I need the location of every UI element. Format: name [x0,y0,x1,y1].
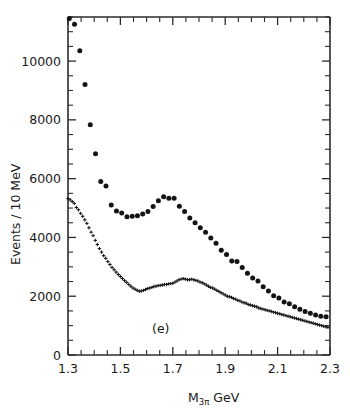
data-point [251,304,254,307]
data-point [156,198,161,203]
data-point [261,307,264,310]
data-point [177,204,182,209]
data-point [305,320,308,323]
data-point [282,313,285,316]
data-point [89,230,92,233]
data-point [203,230,208,235]
data-point [194,279,197,282]
data-point [93,151,98,156]
data-point [261,284,266,289]
data-point [67,16,72,21]
y-tick-label: 8000 [29,112,61,127]
data-point [272,310,275,313]
data-point [293,316,296,319]
x-tick-label: 2.1 [268,361,288,376]
data-point [182,277,185,280]
data-point [284,314,287,317]
data-point [274,311,277,314]
data-point [129,285,132,288]
data-point [187,216,192,221]
data-point [270,310,273,313]
data-point [73,202,76,205]
data-point [192,278,195,281]
y-tick-label: 0 [53,348,61,363]
data-point [151,204,156,209]
data-point [124,214,129,219]
x-axis-label: M3π GeV [188,390,240,407]
data-point [79,212,82,215]
data-point [98,247,101,250]
data-point [288,315,291,318]
data-point [75,206,78,209]
data-point [297,317,300,320]
data-point [299,318,302,321]
data-point [165,283,168,286]
data-point [119,211,124,216]
data-point [117,273,120,276]
data-point [130,214,135,219]
y-tick-label: 10000 [21,54,61,69]
x-axis-label-text: M3π GeV [188,390,240,407]
data-point [112,268,115,271]
data-point [309,321,312,324]
data-point [110,266,113,269]
data-point [94,239,97,242]
data-point [104,257,107,260]
data-point [154,285,157,288]
x-axis-tick-labels: 1.31.51.71.92.12.3 [58,361,340,376]
data-point [292,304,297,309]
data-point [265,309,268,312]
data-point [263,308,266,311]
data-point [316,323,319,326]
data-point [109,203,114,208]
data-point [88,122,93,127]
x-tick-label: 1.9 [215,361,235,376]
data-point [182,209,187,214]
data-point [259,307,262,310]
data-point [140,211,145,216]
data-point [255,278,260,283]
y-tick-label: 6000 [29,171,61,186]
data-point [85,222,88,225]
y-tick-label: 4000 [29,230,61,245]
data-point [242,301,245,304]
data-point [102,254,105,257]
data-point [253,305,256,308]
data-point [287,301,292,306]
data-point [266,288,271,293]
data-point [313,313,318,318]
data-point [314,322,317,325]
data-point [166,196,171,201]
data-point [208,236,213,241]
data-point [214,241,219,246]
data-point [301,319,304,322]
data-point [81,215,84,218]
data-point [280,313,283,316]
data-point [271,293,276,298]
data-point [100,250,103,253]
data-point [123,279,126,282]
data-point [135,213,140,218]
data-point [318,323,321,326]
series-lower-points [66,197,329,329]
data-point [72,22,77,27]
data-point [91,234,94,237]
data-point [276,312,279,315]
panel-label: (e) [152,321,169,336]
data-point [161,194,166,199]
data-point [190,277,193,280]
data-point [282,300,287,305]
y-axis-tick-labels: 0200040006000800010000 [21,54,61,363]
data-point [312,322,315,325]
data-point [98,179,103,184]
mass-spectrum-plot: Events / 10 MeV M3π GeV 1.31.51.71.92.12… [0,0,350,412]
data-point [114,208,119,213]
figure-container: Events / 10 MeV M3π GeV 1.31.51.71.92.12… [0,0,350,412]
data-point [121,277,124,280]
data-point [303,309,308,314]
data-point [249,303,252,306]
data-point [307,320,310,323]
data-point [224,252,229,257]
data-point [229,258,234,263]
data-point [318,314,323,319]
